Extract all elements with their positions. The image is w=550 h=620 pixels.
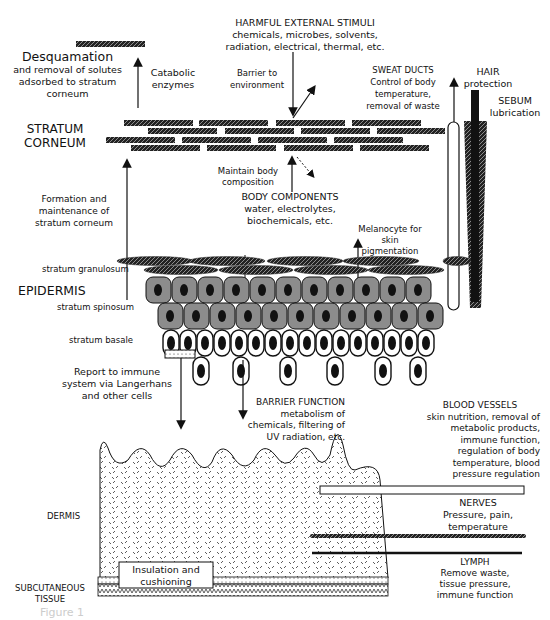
insulation-label: Insulation andcushioning bbox=[119, 564, 213, 588]
stratum-basale-cells bbox=[163, 330, 434, 385]
sebum-label: SEBUMlubrication bbox=[482, 95, 548, 119]
barrier-function-label: BARRIER FUNCTIONmetabolism ofchemicals, … bbox=[230, 397, 345, 443]
nerve bbox=[310, 534, 526, 538]
maintain-composition-label: Maintain bodycomposition bbox=[213, 166, 283, 188]
stratum-granulosum-cells bbox=[117, 257, 471, 275]
stratum-corneum-label: STRATUMCORNEUM bbox=[20, 122, 90, 150]
melanocyte-label: Melanocyte forskinpigmentation bbox=[355, 224, 425, 257]
nerves-label: NERVESPressure, pain,temperature bbox=[428, 497, 528, 533]
immune-report-label: Report to immunesystem via Langerhansand… bbox=[58, 366, 176, 402]
stratum-spinosum-label: stratum spinosum bbox=[57, 301, 134, 313]
desquamation-label: Desquamationand removal of solutesadsorb… bbox=[0, 49, 135, 100]
stratum-basale-label: stratum basale bbox=[69, 334, 133, 346]
hair-shaft bbox=[471, 90, 479, 302]
stratum-granulosum-label: stratum granulosum bbox=[42, 263, 129, 275]
figure-caption: Figure 1 bbox=[40, 606, 84, 619]
dermis-region bbox=[100, 435, 388, 578]
catabolic-enzymes-label: Catabolicenzymes bbox=[143, 67, 203, 91]
blood-vessel bbox=[320, 486, 524, 494]
stratum-spinosum-cells bbox=[146, 277, 443, 329]
harmful-stimuli-label: HARMFUL EXTERNAL STIMULIchemicals, micro… bbox=[190, 17, 420, 53]
body-components-label: BODY COMPONENTSwater, electrolytes,bioch… bbox=[230, 191, 350, 227]
sweat-ducts-label: SWEAT DUCTSControl of bodytemperature,re… bbox=[358, 64, 448, 112]
lymph-label: LYMPHRemove waste,tissue pressure,immune… bbox=[430, 557, 520, 601]
subcutaneous-label: SUBCUTANEOUSTISSUE bbox=[5, 583, 95, 605]
hair-label: HAIRprotection bbox=[458, 66, 518, 90]
dermis-label: DERMIS bbox=[47, 510, 80, 522]
stratum-corneum-layers bbox=[106, 120, 445, 151]
epidermis-label: EPIDERMIS bbox=[18, 283, 86, 298]
barrier-environment-label: Barrier toenvironment bbox=[222, 67, 292, 91]
blood-vessels-label: BLOOD VESSELSskin nutrition, removal ofm… bbox=[400, 400, 540, 481]
desquamated-flake bbox=[76, 41, 145, 47]
langerhans-cell bbox=[165, 350, 195, 358]
formation-label: Formation andmaintenance ofstratum corne… bbox=[28, 193, 120, 229]
sweat-duct bbox=[448, 122, 459, 310]
